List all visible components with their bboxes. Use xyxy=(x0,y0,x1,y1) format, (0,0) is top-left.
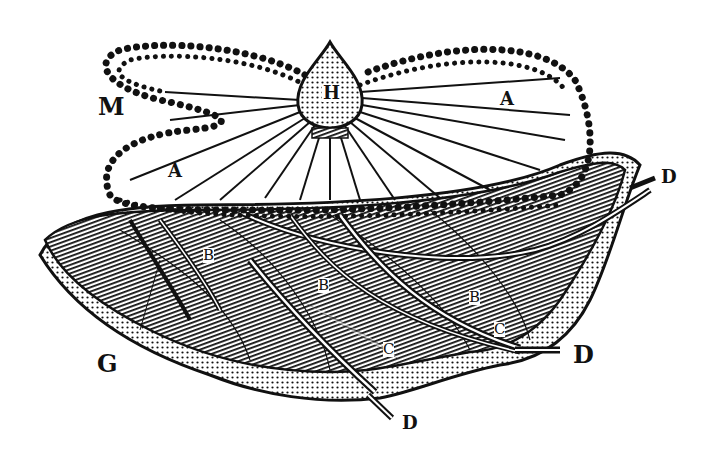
label-D-top: D xyxy=(661,168,677,186)
label-D-bottom: D xyxy=(402,414,418,432)
label-C-right: C xyxy=(494,322,505,337)
label-B-right: B xyxy=(469,290,480,305)
label-H: H xyxy=(322,84,341,102)
label-B-center: B xyxy=(318,278,329,293)
label-A-upper: A xyxy=(500,90,514,108)
label-C-lower: C xyxy=(383,342,394,357)
label-B-left: B xyxy=(203,248,214,263)
label-D-right: D xyxy=(573,343,594,367)
label-A-lower: A xyxy=(168,162,182,180)
anatomical-illustration xyxy=(0,0,704,465)
heart-base xyxy=(312,128,348,138)
label-G: G xyxy=(97,352,118,376)
label-M: M xyxy=(98,95,125,119)
